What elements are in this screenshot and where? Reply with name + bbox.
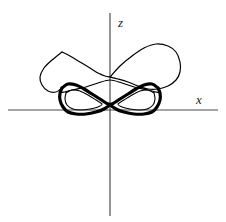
figure-container: z x [0,0,226,222]
z-axis-label: z [117,15,123,30]
curve-right-lobe-inner [118,90,155,110]
curve-upper-left-thin-tail [62,52,110,77]
x-axis-label: x [195,92,202,107]
plot-canvas: z x [0,0,226,222]
axes-group [8,13,218,216]
curve-left-sweep-thin [40,52,62,92]
curve-left-lobe-inner [65,90,102,110]
